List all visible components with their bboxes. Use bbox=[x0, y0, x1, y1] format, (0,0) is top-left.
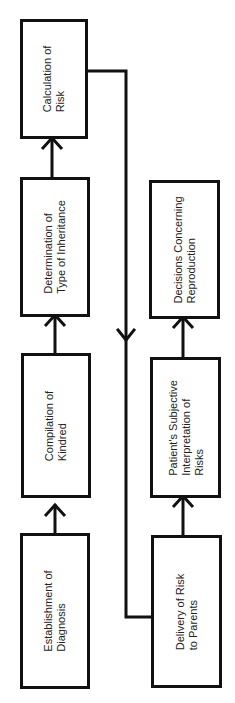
node-calculation-of-risk: Calculation of Risk bbox=[20, 19, 88, 139]
node-decisions-concerning-reproduction: Decisions Concerning Reproduction bbox=[149, 180, 220, 319]
genetic-counseling-flow-diagram: Establishment of Diagnosis Compilation o… bbox=[0, 0, 235, 703]
edge-calculation-delivery bbox=[87, 71, 152, 617]
node-label: Delivery of Risk to Parents bbox=[174, 573, 200, 649]
node-establishment-of-diagnosis: Establishment of Diagnosis bbox=[20, 533, 90, 689]
node-label: Calculation of Risk bbox=[41, 46, 67, 113]
node-label: Patient's Subjective Interpretation of R… bbox=[166, 380, 205, 476]
node-label: Decisions Concerning Reproduction bbox=[172, 196, 198, 303]
node-determination-of-type-of-inheritance: Determination of Type of Inheritance bbox=[20, 177, 90, 317]
node-label: Compilation of Kindred bbox=[43, 390, 69, 460]
node-compilation-of-kindred: Compilation of Kindred bbox=[21, 353, 91, 498]
node-label: Establishment of Diagnosis bbox=[42, 570, 68, 651]
node-label: Determination of Type of Inheritance bbox=[42, 200, 68, 294]
node-delivery-of-risk-to-parents: Delivery of Risk to Parents bbox=[151, 535, 222, 688]
node-patients-subjective-interpretation-of-risks: Patient's Subjective Interpretation of R… bbox=[150, 357, 221, 498]
